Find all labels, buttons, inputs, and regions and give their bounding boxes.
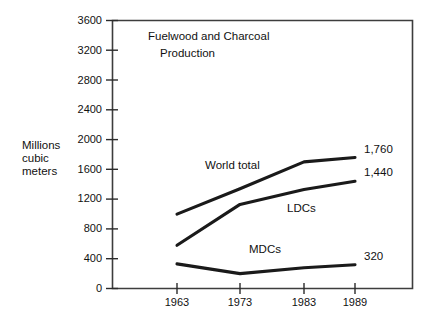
chart-title-line2: Production <box>160 47 215 61</box>
y-tick-label-3200: 3200 <box>62 44 102 57</box>
y-axis-title-line3: meters <box>22 165 57 179</box>
x-tick-label-1963: 1963 <box>155 296 199 309</box>
y-tick-label-1200: 1200 <box>62 192 102 205</box>
chart-title-line1: Fuelwood and Charcoal <box>148 30 269 44</box>
value-label-ldcs: 1,440 <box>364 166 393 180</box>
series-label-world-total: World total <box>205 159 260 173</box>
chart-figure: 0 400 800 1200 1600 2000 2400 2800 3200 … <box>0 0 432 325</box>
y-tick-label-1600: 1600 <box>62 163 102 176</box>
y-tick-label-2400: 2400 <box>62 103 102 116</box>
y-tick-label-3600: 3600 <box>62 14 102 27</box>
y-tick-label-2000: 2000 <box>62 133 102 146</box>
series-label-mdcs: MDCs <box>249 243 281 257</box>
x-tick-label-1983: 1983 <box>282 296 326 309</box>
y-tick-label-400: 400 <box>62 252 102 265</box>
y-axis-title-line1: Millions <box>22 139 60 153</box>
y-axis-title-line2: cubic <box>22 152 49 166</box>
y-tick-label-0: 0 <box>62 282 102 295</box>
x-tick-label-1989: 1989 <box>333 296 377 309</box>
series-label-ldcs: LDCs <box>287 202 316 216</box>
y-tick-label-2800: 2800 <box>62 74 102 87</box>
value-label-world-total: 1,760 <box>364 143 393 157</box>
series-line-ldcs <box>177 181 355 245</box>
series-line-mdcs <box>177 264 355 274</box>
y-tick-label-800: 800 <box>62 222 102 235</box>
value-label-mdcs: 320 <box>364 250 383 264</box>
x-tick-label-1973: 1973 <box>218 296 262 309</box>
